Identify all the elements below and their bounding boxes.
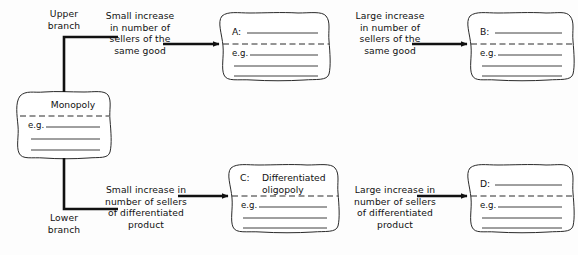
box-d-prompt: D: (480, 178, 490, 190)
box-d-eg-label: e.g. (480, 200, 496, 210)
box-d-shape (468, 165, 574, 233)
box-b-eg-label: e.g. (480, 48, 496, 58)
upper-branch-label: Upper branch (36, 8, 92, 31)
arrow-upper-right-label: Large increase in number of sellers of t… (348, 10, 432, 56)
box-b-shape (468, 13, 574, 81)
box-a-shape (220, 13, 330, 81)
box-c-answer: Differentiated oligopoly (262, 172, 346, 195)
arrow-upper-left-label: Small increase in number of sellers of t… (98, 10, 182, 56)
arrow-lower-left-label: Small increase in number of sellers of d… (96, 184, 196, 230)
box-a-eg-label: e.g. (232, 48, 248, 58)
box-a-prompt: A: (232, 26, 241, 38)
box-c-eg-label: e.g. (241, 200, 257, 210)
arrow-lower-right-label: Large increase in number of sellers of d… (345, 184, 445, 230)
box-c-prompt: C: (240, 172, 250, 184)
lower-branch-label: Lower branch (36, 212, 92, 235)
box-b-prompt: B: (480, 26, 489, 38)
monopoly-eg-label: e.g. (28, 120, 44, 130)
diagram-canvas: Upper branch Lower branch Monopoly e.g. … (0, 0, 578, 255)
monopoly-box-title: Monopoly (40, 99, 106, 111)
